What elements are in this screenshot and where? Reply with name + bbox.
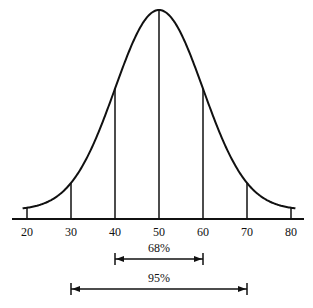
arrow-left-icon xyxy=(72,286,80,292)
range-label: 68% xyxy=(148,241,170,255)
arrow-right-icon xyxy=(194,256,202,262)
x-label-40: 40 xyxy=(109,225,121,239)
range-label: 95% xyxy=(148,271,170,285)
arrow-right-icon xyxy=(238,286,246,292)
x-label-30: 30 xyxy=(65,225,77,239)
x-label-60: 60 xyxy=(197,225,209,239)
x-label-80: 80 xyxy=(285,225,297,239)
range-68pct: 68% xyxy=(115,241,203,265)
normal-distribution-diagram: 20304050607080 68%95% xyxy=(0,0,313,308)
range-brackets: 68%95% xyxy=(71,241,247,295)
x-label-70: 70 xyxy=(241,225,253,239)
arrow-left-icon xyxy=(116,256,124,262)
range-95pct: 95% xyxy=(71,271,247,295)
x-label-50: 50 xyxy=(153,225,165,239)
x-axis-labels: 20304050607080 xyxy=(21,225,297,239)
x-label-20: 20 xyxy=(21,225,33,239)
